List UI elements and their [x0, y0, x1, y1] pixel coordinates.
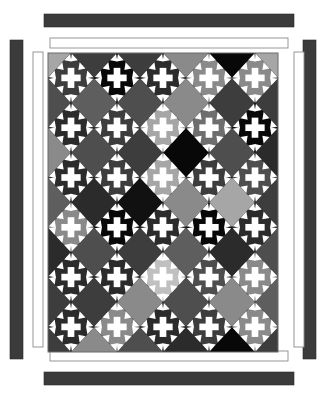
cross-bar-vertical — [206, 267, 213, 287]
cross-bar-vertical — [68, 317, 75, 337]
cross-bar-vertical — [114, 267, 121, 287]
cross-bar-vertical — [114, 217, 121, 237]
cross-bar-vertical — [252, 118, 259, 138]
cross-bar-vertical — [160, 317, 167, 337]
inner-border-left — [33, 52, 43, 347]
cross-bar-vertical — [160, 217, 167, 237]
cross-bar-vertical — [252, 167, 259, 187]
cross-bar-vertical — [206, 167, 213, 187]
cross-bar-vertical — [68, 267, 75, 287]
cross-bar-vertical — [206, 317, 213, 337]
cross-bar-vertical — [252, 317, 259, 337]
cross-bar-vertical — [160, 267, 167, 287]
outer-border-bottom — [44, 372, 294, 385]
cross-bar-vertical — [252, 68, 259, 88]
cross-bar-vertical — [114, 167, 121, 187]
cross-bar-vertical — [114, 317, 121, 337]
cross-bar-vertical — [160, 167, 167, 187]
cross-bar-vertical — [114, 68, 121, 88]
cross-bar-vertical — [252, 267, 259, 287]
cross-bar-vertical — [206, 68, 213, 88]
cross-bar-vertical — [68, 118, 75, 138]
cross-bar-vertical — [206, 118, 213, 138]
inner-border-right — [294, 52, 304, 347]
quilt-diagram-canvas — [0, 0, 317, 399]
quilt-body-group — [25, 28, 301, 377]
cross-bar-vertical — [114, 118, 121, 138]
cross-bar-vertical — [68, 167, 75, 187]
inner-border-top — [50, 38, 288, 48]
cross-bar-vertical — [206, 217, 213, 237]
cross-bar-vertical — [252, 217, 259, 237]
outer-border-right — [303, 40, 316, 359]
outer-border-top — [44, 14, 294, 27]
cross-bar-vertical — [68, 68, 75, 88]
cross-bar-vertical — [160, 68, 167, 88]
cross-bar-vertical — [68, 217, 75, 237]
quilt-illustration — [0, 0, 317, 399]
cross-bar-vertical — [160, 118, 167, 138]
outer-border-left — [10, 40, 23, 359]
